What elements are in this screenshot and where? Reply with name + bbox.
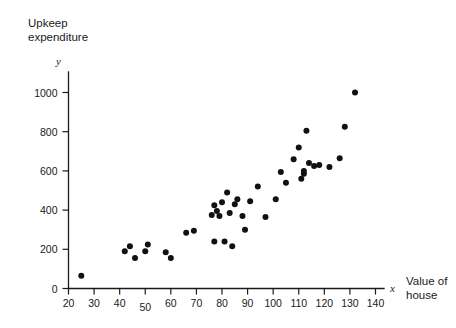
scatter-point: [216, 213, 222, 219]
scatter-point: [316, 162, 322, 168]
scatter-point: [262, 214, 268, 220]
chart-canvas: Upkeep expenditure y x Value of house 02…: [0, 0, 456, 328]
y-axis-tick-label: 800: [40, 126, 58, 138]
scatter-point: [311, 163, 317, 169]
scatter-point: [326, 164, 332, 170]
x-axis-tick-label: 90: [242, 297, 254, 309]
scatter-point: [142, 248, 148, 254]
scatter-point: [191, 228, 197, 234]
scatter-point: [352, 90, 358, 96]
y-axis-variable-symbol: y: [55, 55, 61, 67]
y-axis-title-line1: Upkeep: [28, 17, 68, 29]
scatter-point: [296, 144, 302, 150]
x-axis-tick-label: 70: [191, 297, 203, 309]
x-axis-tick-label: 30: [88, 297, 100, 309]
scatter-point: [145, 241, 151, 247]
x-axis-tick-label: 130: [341, 297, 359, 309]
scatter-point: [163, 249, 169, 255]
scatter-point: [342, 124, 348, 130]
scatter-point: [255, 184, 261, 190]
scatter-point: [247, 198, 253, 204]
scatter-point: [283, 180, 289, 186]
scatter-point: [337, 155, 343, 161]
scatter-point: [132, 255, 138, 261]
scatter-point: [303, 128, 309, 134]
x-axis-tick-label: 50: [139, 301, 151, 313]
x-axis-tick-label: 100: [264, 297, 282, 309]
x-axis-tick-label: 80: [216, 297, 228, 309]
y-axis-tick-label: 1000: [34, 87, 58, 99]
scatter-point: [183, 230, 189, 236]
scatter-point: [278, 169, 284, 175]
scatter-point: [229, 243, 235, 249]
x-axis-tick-label: 60: [165, 297, 177, 309]
scatter-point: [242, 227, 248, 233]
scatter-point: [211, 202, 217, 208]
x-axis-variable-symbol: x: [389, 282, 395, 294]
x-axis-tick-label: 140: [367, 297, 385, 309]
scatter-point: [127, 243, 133, 249]
x-axis-tick-label: 40: [114, 297, 126, 309]
x-axis-tick-label: 110: [290, 297, 307, 309]
y-axis-ticks: 02004006008001000: [34, 87, 68, 295]
scatter-point: [222, 238, 228, 244]
x-axis-ticks: 2030405060708090100110120130140: [63, 289, 385, 313]
y-axis-tick-label: 200: [40, 243, 58, 255]
scatter-point: [224, 189, 230, 195]
scatter-point: [122, 248, 128, 254]
x-axis-title-line1: Value of: [406, 275, 448, 287]
scatter-points-layer: [78, 90, 358, 279]
y-axis-tick-label: 400: [40, 204, 58, 216]
y-axis-tick-label: 0: [52, 283, 58, 295]
scatter-point: [211, 238, 217, 244]
scatter-point: [273, 196, 279, 202]
scatter-point: [219, 199, 225, 205]
scatter-point: [78, 273, 84, 279]
scatter-point: [291, 156, 297, 162]
scatter-point: [234, 196, 240, 202]
y-axis-title-line2: expenditure: [28, 31, 88, 43]
scatter-plot-figure: Upkeep expenditure y x Value of house 02…: [0, 0, 456, 328]
scatter-point: [227, 210, 233, 216]
y-axis-tick-label: 600: [40, 165, 58, 177]
scatter-point: [301, 168, 307, 174]
x-axis-tick-label: 20: [63, 297, 75, 309]
scatter-point: [239, 213, 245, 219]
scatter-point: [168, 255, 174, 261]
x-axis-title-line2: house: [406, 289, 437, 301]
scatter-point: [209, 212, 215, 218]
scatter-point: [306, 160, 312, 166]
x-axis-tick-label: 120: [316, 297, 334, 309]
